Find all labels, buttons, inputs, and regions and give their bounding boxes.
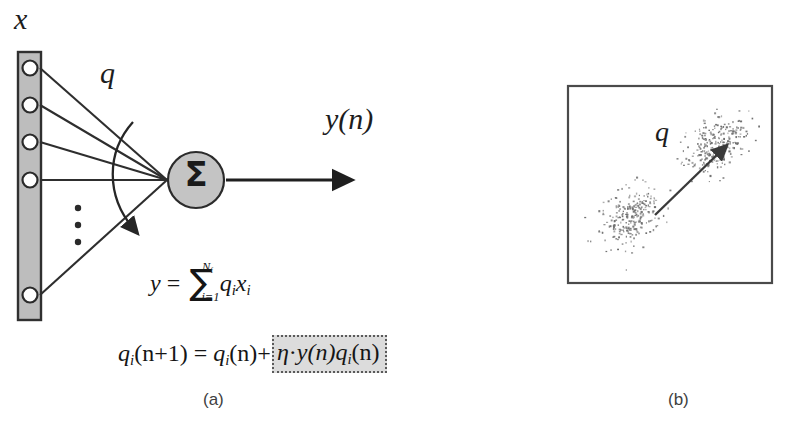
eq-update-lhs-q: q [118, 340, 130, 366]
ellipsis-dot [75, 205, 81, 211]
weight-vector-label: q [100, 58, 115, 88]
eq-update-equals: = [194, 340, 208, 366]
eq-output-equals: = [167, 270, 181, 296]
panel-b-weight-label: q [655, 118, 669, 146]
input-vector-label: x [14, 4, 27, 34]
summation-upper-limit: Nf [202, 261, 213, 275]
eq-update-lhs-arg: (n+1) [134, 340, 188, 366]
highlight-y-arg: y(n) [297, 339, 336, 365]
eq-output-q: q [220, 270, 232, 296]
panel-b-caption: (b) [668, 390, 689, 410]
eq-update-plus: + [257, 340, 271, 366]
output-equation: y = Nf ∑ i=1 qixi [150, 268, 251, 298]
eq-update-rhs-q: q [213, 340, 225, 366]
input-node [23, 98, 38, 113]
panel-a-caption: (a) [203, 390, 224, 410]
panel-b-graphics [470, 0, 802, 433]
input-node [23, 61, 38, 76]
weight-line [40, 105, 167, 180]
feature-space-frame [568, 86, 772, 283]
summation-operator: Nf ∑ i=1 [189, 268, 212, 298]
input-node [23, 173, 38, 188]
ellipsis-dot [75, 222, 81, 228]
highlight-q: q [335, 339, 347, 365]
highlight-q-arg: (n) [352, 339, 380, 365]
multiplication-dot: · [289, 339, 297, 365]
eq-update-rhs-arg: (n) [229, 340, 257, 366]
weight-sweep-arc [113, 122, 133, 228]
panel-a: Σ x q y(n) y = Nf ∑ i=1 qixi qi(n+1) = q… [0, 0, 470, 433]
output-signal-label: y(n) [325, 104, 373, 134]
panel-b: q (b) [470, 0, 802, 433]
eta-symbol: η [277, 339, 289, 365]
summation-symbol: Σ [176, 157, 216, 191]
figure-root: Σ x q y(n) y = Nf ∑ i=1 qixi qi(n+1) = q… [0, 0, 802, 433]
eq-output-lhs: y [150, 270, 161, 296]
eq-output-x: x [236, 270, 247, 296]
ellipsis-dot [75, 239, 81, 245]
weight-line [40, 180, 167, 295]
summation-lower-limit: i=1 [201, 291, 219, 303]
input-node [23, 135, 38, 150]
weight-line [40, 142, 167, 180]
hebbian-term-highlight: η·y(n)qi(n) [272, 335, 387, 373]
weight-update-equation: qi(n+1) = qi(n)+η·y(n)qi(n) [118, 336, 387, 374]
eq-output-x-sub: i [246, 282, 250, 298]
input-node [23, 288, 38, 303]
